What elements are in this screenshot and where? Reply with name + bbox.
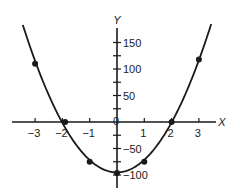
x-tick-label: −2 <box>55 127 68 139</box>
x-tick-label: 2 <box>168 127 174 139</box>
y-tick-label: 100 <box>123 63 141 75</box>
x-tick-label: −1 <box>82 127 95 139</box>
x-tick-label: 3 <box>195 127 201 139</box>
data-point-marker <box>141 159 147 165</box>
parabola-chart: −3−2−10123−100−5050100150XY <box>0 0 240 196</box>
data-point-marker <box>87 159 93 165</box>
y-tick-label: −50 <box>123 143 142 155</box>
axes <box>12 28 216 188</box>
x-tick-label: −3 <box>28 127 41 139</box>
data-point-marker <box>114 170 120 176</box>
y-tick-label: 50 <box>123 90 135 102</box>
data-point-marker <box>169 119 175 125</box>
tick-labels: −3−2−10123−100−5050100150XY <box>28 14 227 181</box>
x-tick-label: 1 <box>140 127 146 139</box>
y-tick-label: 150 <box>123 37 141 49</box>
x-axis-label: X <box>217 116 226 128</box>
y-tick-label: −100 <box>123 169 148 181</box>
data-point-marker <box>62 119 68 125</box>
data-point-marker <box>196 56 202 62</box>
data-point-marker <box>32 61 38 67</box>
x-tick-label: 0 <box>113 115 119 127</box>
y-axis-label: Y <box>113 14 121 26</box>
